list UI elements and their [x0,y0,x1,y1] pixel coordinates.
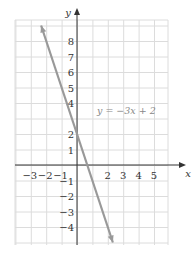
line-arrow-top-icon [40,26,46,34]
y-tick-label: 8 [68,36,74,47]
y-tick-label: 6 [68,67,74,78]
y-tick-label: 1 [68,145,74,156]
y-axis-label: y [64,7,71,18]
y-tick-label: 2 [68,129,74,140]
equation-label: y = −3x + 2 [96,105,156,116]
x-tick-label: −2 [38,170,53,181]
x-tick-label: 5 [151,170,157,181]
y-tick-label: 5 [68,83,74,94]
x-tick-label: −3 [22,170,37,181]
x-tick-label: 4 [135,170,141,181]
x-axis-label: x [185,168,191,179]
line-graph: xy−3−2−123458765421−1−2−3−4y = −3x + 2 [0,0,193,257]
y-axis-arrow-icon [74,8,80,15]
x-tick-label: 2 [105,170,111,181]
y-tick-label: −3 [59,207,74,218]
y-tick-label: −4 [59,222,74,233]
grid [15,20,168,245]
y-tick-label: −1 [59,176,74,187]
y-tick-label: 7 [68,52,74,63]
x-tick-label: 3 [120,170,126,181]
y-tick-label: −2 [59,191,74,202]
